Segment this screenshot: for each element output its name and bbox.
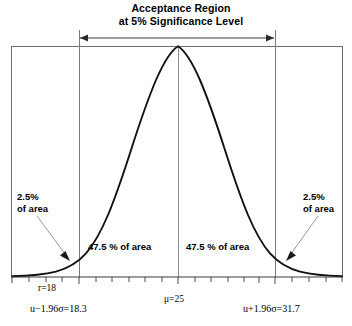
x-axis-ticks bbox=[12, 277, 342, 284]
acceptance-area-left-label: 47.5 % of area bbox=[88, 241, 151, 252]
chart-title-line-1: Acceptance Region bbox=[96, 2, 266, 15]
chart-title-line-2: at 5% Significance Level bbox=[96, 15, 266, 28]
mean-vertical-line bbox=[178, 46, 179, 278]
observed-value-label: r=18 bbox=[38, 283, 56, 293]
lower-critical-label: u−1.96σ=18.3 bbox=[30, 303, 87, 314]
upper-critical-label: u+1.96σ=31.7 bbox=[243, 303, 300, 314]
right-tail-text: of area bbox=[303, 203, 334, 215]
left-tail-percent: 2.5% bbox=[17, 191, 48, 203]
mean-label: μ=25 bbox=[164, 294, 184, 304]
lower-critical-vertical-line bbox=[79, 30, 80, 278]
chart-title: Acceptance Region at 5% Significance Lev… bbox=[96, 2, 266, 28]
left-tail-label: 2.5% of area bbox=[17, 191, 48, 215]
plot-frame bbox=[11, 46, 343, 277]
right-tail-percent: 2.5% bbox=[303, 191, 334, 203]
left-tail-text: of area bbox=[17, 203, 48, 215]
right-tail-label: 2.5% of area bbox=[303, 191, 334, 215]
upper-critical-vertical-line bbox=[275, 30, 276, 278]
normal-distribution-figure: Acceptance Region at 5% Significance Lev… bbox=[0, 0, 352, 326]
acceptance-area-right-label: 47.5 % of area bbox=[186, 241, 249, 252]
